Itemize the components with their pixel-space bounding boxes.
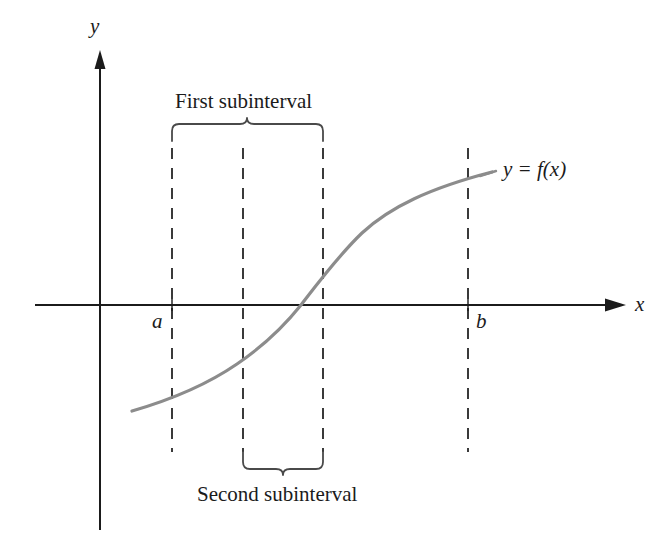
x-axis [35,299,626,312]
first-subinterval-brace [172,118,323,141]
y-axis [95,50,106,530]
second-subinterval-caption: Second subinterval [197,482,357,507]
function-curve [132,172,492,411]
x-axis-label: x [635,292,644,317]
subinterval-diagram: First subinterval Second subinterval y x… [0,0,669,551]
y-axis-label: y [90,14,99,39]
second-subinterval-brace [243,452,323,475]
curve-equation-label: y = f(x) [503,157,566,182]
diagram-canvas [0,0,669,551]
tick-label-a: a [152,309,163,334]
first-subinterval-caption: First subinterval [175,89,312,114]
tick-label-b: b [476,309,487,334]
